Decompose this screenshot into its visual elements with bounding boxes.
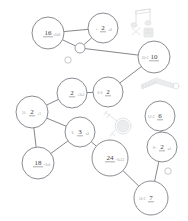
node-value: 18 <box>35 159 43 167</box>
node-n6[interactable]: 612÷2 <box>145 101 175 131</box>
node-note-left: 20÷2 <box>142 56 149 60</box>
node-n2d[interactable]: 210-+1 <box>16 96 48 128</box>
node-value: 16 <box>45 29 53 37</box>
nodes-layer: 16x3=82+=41020÷22+3=126÷3210-+136-=418÷3… <box>16 13 177 215</box>
node-note: x3=8 <box>54 33 61 37</box>
node-n2a[interactable]: 2+=4 <box>88 13 118 43</box>
edge-nhub-n10 <box>85 49 138 55</box>
node-note-left: 10- <box>22 111 26 115</box>
node-note-left: 12÷2 <box>148 115 155 119</box>
edge-n2d-n18 <box>34 128 36 147</box>
node-nhub[interactable] <box>75 43 85 53</box>
node-note: =4 <box>86 132 90 136</box>
node-value: 2 <box>30 108 34 116</box>
node-value: 3 <box>78 128 82 136</box>
node-value: 6 <box>158 112 162 120</box>
node-circle[interactable] <box>75 43 85 53</box>
music-note-sketch <box>131 9 153 37</box>
node-note-left: 6÷3 <box>97 91 102 95</box>
node-note: =4 <box>168 147 172 151</box>
comb-sketch <box>141 78 179 89</box>
node-note-left: + <box>96 27 98 31</box>
node-n3[interactable]: 36-=4 <box>65 117 95 147</box>
diagram-canvas: 16x3=82+=41020÷22+3=126÷3210-+136-=418÷3… <box>0 0 188 221</box>
edge-nhub-n2a <box>84 38 92 45</box>
edge-n10-n2c <box>120 67 141 83</box>
node-value: 7 <box>149 194 153 202</box>
node-note-left: 14÷2 <box>139 197 146 201</box>
edge-n2b-n2d <box>46 99 58 105</box>
node-value: 2 <box>70 89 74 97</box>
node-n2c[interactable]: 26÷3 <box>93 77 123 107</box>
edge-n3-n18 <box>51 141 68 154</box>
edge-n2e-n7 <box>155 162 159 182</box>
node-n2b[interactable]: 2+3=1 <box>57 78 87 108</box>
node-note: +1 <box>38 112 42 116</box>
edge-n2d-n3 <box>47 118 66 126</box>
node-note: ÷3=6 <box>44 163 51 167</box>
node-note: =4 <box>109 28 113 32</box>
tiny-node-t1 <box>65 57 71 63</box>
node-note-left: 8÷ <box>153 146 157 150</box>
node-note: ÷3=12 <box>116 158 125 162</box>
tiny-node-t2 <box>165 168 171 174</box>
node-n16[interactable]: 16x3=8 <box>32 17 64 49</box>
node-value: 2 <box>106 88 110 96</box>
node-value: 10 <box>151 53 159 61</box>
node-n24[interactable]: 24÷3=12 <box>92 140 128 176</box>
node-n7[interactable]: 714÷2 <box>134 181 168 215</box>
keys-sketch <box>104 111 131 136</box>
node-n18[interactable]: 18÷3=6 <box>22 147 54 179</box>
edge-n24-n7 <box>123 171 139 187</box>
node-n10[interactable]: 1020÷2 <box>138 41 170 73</box>
edge-n16-n2a <box>64 29 88 31</box>
edge-n3-n24 <box>91 142 96 146</box>
node-value: 2 <box>160 143 164 151</box>
edge-n16-nhub <box>62 40 75 46</box>
node-note-left: 6- <box>72 131 75 135</box>
node-note: +3=1 <box>78 93 85 97</box>
node-n2e[interactable]: 28÷=4 <box>147 132 177 162</box>
node-value: 24 <box>107 154 115 162</box>
node-value: 2 <box>101 24 105 32</box>
